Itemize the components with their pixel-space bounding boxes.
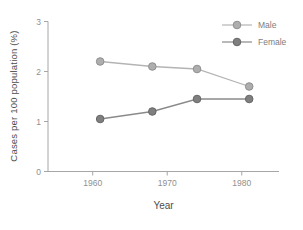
female-data-point-1 [149,108,157,116]
male-data-point-0 [96,58,104,66]
x-axis-title: Year [48,200,279,211]
x-tick-label-1970: 1970 [158,178,177,188]
legend-male-marker [233,21,241,29]
x-tick-label-1960: 1960 [83,178,102,188]
y-tick-label-1: 1 [36,117,41,127]
female-data-point-3 [245,95,253,103]
legend-label-male: Male [258,20,277,30]
y-tick-label-2: 2 [36,67,41,77]
x-tick-label-1980: 1980 [232,178,251,188]
female-series-line [100,99,249,119]
male-data-point-1 [149,63,157,71]
female-data-point-2 [193,95,201,103]
line-chart-figure: Cases per 100 population (%) 01231960197… [0,0,303,230]
chart-canvas: 0123196019701980MaleFemale [0,0,303,230]
male-data-point-2 [193,65,201,73]
male-data-point-3 [245,83,253,91]
y-tick-label-3: 3 [36,17,41,27]
male-series-line [100,62,249,87]
female-data-point-0 [96,115,104,123]
legend-female-marker [233,38,241,46]
y-tick-label-0: 0 [36,167,41,177]
legend-label-female: Female [258,37,287,47]
